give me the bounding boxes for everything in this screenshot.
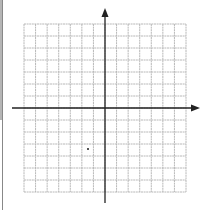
- y-axis-arrow-icon: [102, 8, 109, 17]
- coordinate-plane: [0, 0, 208, 210]
- marks: [87, 148, 89, 150]
- axes: [12, 8, 200, 203]
- stray-mark: [87, 148, 89, 150]
- x-axis-arrow-icon: [191, 105, 200, 112]
